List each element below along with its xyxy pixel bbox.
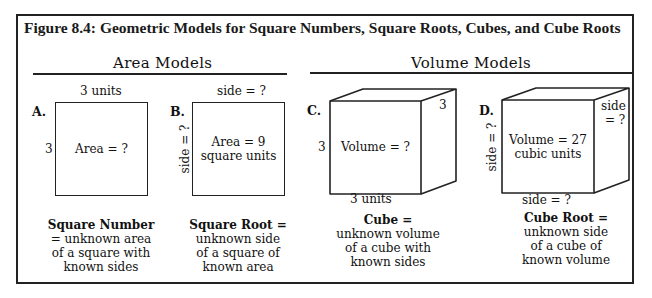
model-c-caption-title: Cube = [364, 213, 413, 227]
model-c-caption-line: of a cube with [313, 241, 463, 255]
model-d-inner-text-2: cubic units [502, 147, 594, 161]
model-c-letter: C. [307, 103, 321, 118]
model-c-inner-text: Volume = ? [330, 140, 421, 154]
model-c-bottom-label: 3 units [350, 192, 392, 206]
model-d-left-label: side = ? [485, 117, 499, 177]
model-c-caption-line: known sides [313, 255, 463, 269]
model-d-bottom-label: side = ? [522, 193, 571, 207]
model-d-caption-line: of a cube of [491, 239, 641, 253]
model-c-depth-label: 3 [439, 98, 447, 112]
model-d-depth-label-1: side [601, 99, 626, 113]
model-d-letter: D. [479, 103, 494, 118]
model-c-caption-line: unknown volume [313, 227, 463, 241]
model-c-caption: Cube = unknown volume of a cube with kno… [313, 213, 463, 269]
model-d-caption-line: known volume [491, 253, 641, 267]
model-c-left-label: 3 [318, 140, 326, 154]
model-d-caption-title: Cube Root = [524, 211, 608, 225]
model-d-caption-line: unknown side [491, 225, 641, 239]
model-d-caption: Cube Root = unknown side of a cube of kn… [491, 211, 641, 267]
model-d-inner-text-1: Volume = 27 [502, 133, 594, 147]
model-d-depth-label-2: = ? [605, 113, 625, 127]
